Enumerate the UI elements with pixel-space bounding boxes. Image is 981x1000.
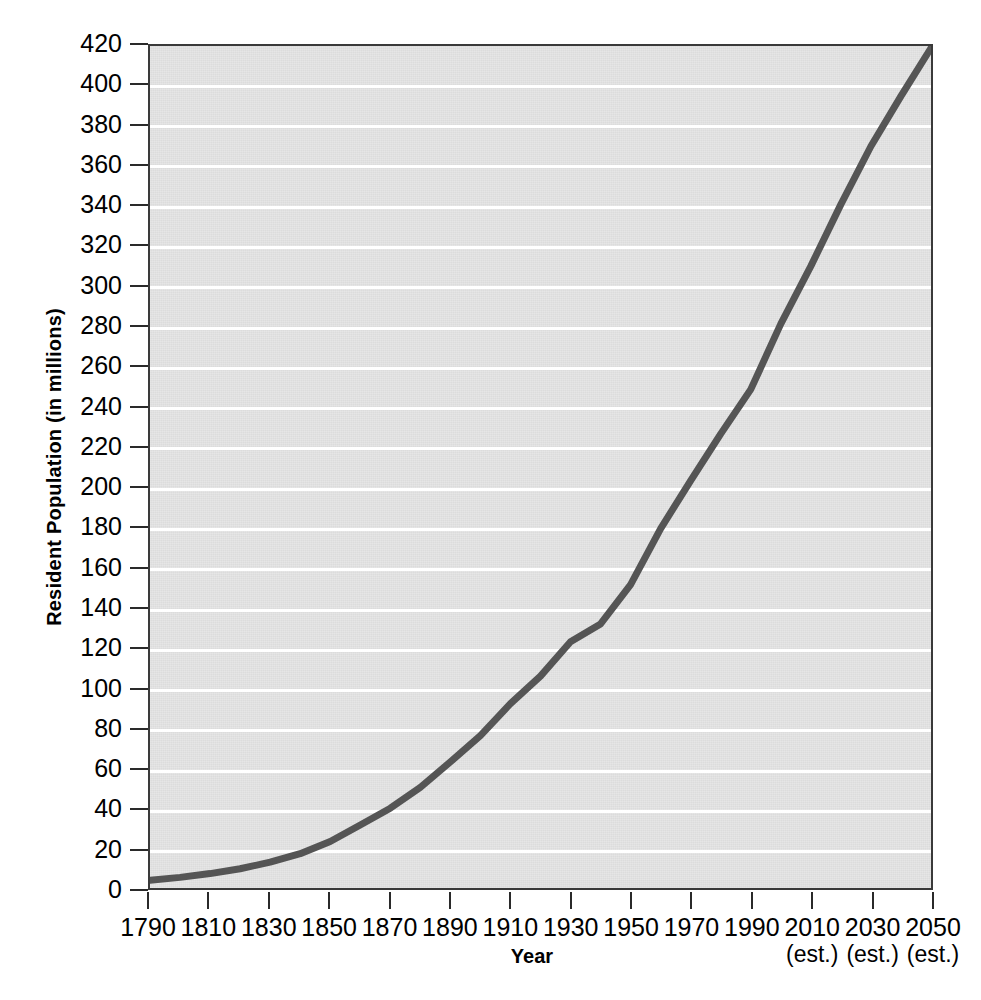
y-axis-tick <box>130 647 148 649</box>
y-axis-label-wrap: 180 <box>48 514 122 539</box>
x-axis-title: Year <box>148 945 916 968</box>
y-axis-label: 140 <box>52 595 122 620</box>
y-axis-label: 100 <box>52 676 122 701</box>
y-axis-label: 60 <box>52 756 122 781</box>
y-axis-label-wrap: 20 <box>48 837 122 862</box>
y-axis-label-wrap: 160 <box>48 555 122 580</box>
y-axis-label-wrap: 300 <box>48 273 122 298</box>
y-axis-label-wrap: 380 <box>48 112 122 137</box>
y-axis-label-wrap: 360 <box>48 152 122 177</box>
y-axis-label: 360 <box>52 152 122 177</box>
y-axis-label: 300 <box>52 273 122 298</box>
y-axis-label-wrap: 120 <box>48 635 122 660</box>
y-axis-tick <box>130 567 148 569</box>
y-axis-label-wrap: 100 <box>48 676 122 701</box>
x-axis-tick <box>751 892 753 909</box>
y-axis-tick <box>130 486 148 488</box>
y-axis-label: 380 <box>52 112 122 137</box>
y-axis-label-wrap: 40 <box>48 796 122 821</box>
x-axis-tick <box>570 892 572 909</box>
y-axis-label-wrap: 200 <box>48 474 122 499</box>
x-axis-label: 2050 <box>883 913 981 941</box>
y-axis-tick <box>130 244 148 246</box>
y-axis-label-wrap: 60 <box>48 756 122 781</box>
y-axis-tick <box>130 688 148 690</box>
y-axis-label-wrap: 220 <box>48 434 122 459</box>
y-axis-label: 0 <box>52 877 122 902</box>
y-axis-tick <box>130 43 148 45</box>
y-axis-label-wrap: 320 <box>48 232 122 257</box>
y-axis-tick <box>130 849 148 851</box>
y-axis-label: 320 <box>52 232 122 257</box>
x-axis-tick <box>690 892 692 909</box>
y-axis-label-wrap: 280 <box>48 313 122 338</box>
x-axis-tick <box>811 892 813 909</box>
y-axis-tick <box>130 808 148 810</box>
y-axis-label: 20 <box>52 837 122 862</box>
series-line-resident-population <box>150 46 931 888</box>
y-axis-label: 160 <box>52 555 122 580</box>
x-axis-tick <box>932 892 934 909</box>
x-axis-tick <box>147 892 149 909</box>
y-axis-tick <box>130 607 148 609</box>
y-axis-label: 200 <box>52 474 122 499</box>
y-axis-tick <box>130 889 148 891</box>
y-axis-label-wrap: 340 <box>48 192 122 217</box>
y-axis-tick <box>130 325 148 327</box>
y-axis-label-wrap: 400 <box>48 71 122 96</box>
plot-area <box>148 44 933 890</box>
x-axis-tick <box>389 892 391 909</box>
y-axis-label: 120 <box>52 635 122 660</box>
y-axis-tick <box>130 285 148 287</box>
y-axis-tick <box>130 526 148 528</box>
y-axis-label-wrap: 80 <box>48 716 122 741</box>
x-axis-tick <box>872 892 874 909</box>
y-axis-label-wrap: 420 <box>48 31 122 56</box>
y-axis-label-wrap: 240 <box>48 394 122 419</box>
y-axis-tick <box>130 728 148 730</box>
y-axis-label-wrap: 260 <box>48 353 122 378</box>
y-axis-label: 400 <box>52 71 122 96</box>
y-axis-tick <box>130 768 148 770</box>
y-axis-label: 340 <box>52 192 122 217</box>
y-axis-tick <box>130 365 148 367</box>
y-axis-label: 260 <box>52 353 122 378</box>
y-axis-label: 40 <box>52 796 122 821</box>
y-axis-label: 180 <box>52 514 122 539</box>
y-axis-tick <box>130 204 148 206</box>
y-axis-tick <box>130 446 148 448</box>
x-axis-tick <box>449 892 451 909</box>
y-axis-tick <box>130 164 148 166</box>
x-axis-tick <box>630 892 632 909</box>
y-axis-label: 420 <box>52 31 122 56</box>
y-axis-label-wrap: 140 <box>48 595 122 620</box>
x-axis-tick <box>207 892 209 909</box>
x-axis-tick <box>268 892 270 909</box>
y-axis-label: 280 <box>52 313 122 338</box>
x-axis-tick <box>509 892 511 909</box>
y-axis-label: 240 <box>52 394 122 419</box>
population-line-chart: Resident Population (in millions) 020406… <box>0 0 981 1000</box>
y-axis-tick <box>130 406 148 408</box>
y-axis-label-wrap: 0 <box>48 877 122 902</box>
x-axis-tick <box>328 892 330 909</box>
y-axis-label: 220 <box>52 434 122 459</box>
y-axis-tick <box>130 124 148 126</box>
y-axis-label: 80 <box>52 716 122 741</box>
y-axis-tick <box>130 83 148 85</box>
